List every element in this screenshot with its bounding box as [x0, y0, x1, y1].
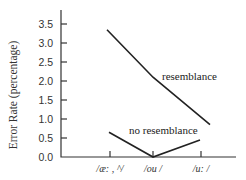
y-tick-label: 3.0: [38, 37, 53, 49]
series-labels: resemblanceno resemblance: [129, 70, 217, 136]
y-tick-label: 2.5: [38, 56, 53, 68]
data-series: [107, 30, 210, 157]
y-axis-label: Error Rate (percentage): [7, 41, 20, 150]
y-axis-title: Error Rate (percentage): [7, 41, 20, 150]
y-tick-label: 1.0: [38, 113, 53, 125]
line-chart: Error Rate (percentage) 0.00.51.01.52.02…: [0, 0, 246, 180]
y-tick-label: 0.5: [38, 132, 53, 144]
x-axis-ticks: /æ: , ^//ou //u: /: [95, 151, 210, 174]
series-line-no-resemblance: [109, 132, 200, 157]
x-category-label: /u: /: [192, 163, 211, 174]
y-tick-label: 0.0: [38, 151, 53, 163]
series-label-resemblance: resemblance: [162, 70, 217, 82]
y-tick-label: 2.0: [38, 75, 53, 87]
y-tick-label: 3.5: [38, 18, 53, 30]
y-tick-label: 1.5: [38, 94, 53, 106]
x-category-label: /ou /: [143, 163, 163, 174]
x-category-label: /æ: , ^/: [95, 163, 124, 174]
y-axis-ticks: 0.00.51.01.52.02.53.03.5: [38, 18, 67, 163]
series-label-no-resemblance: no resemblance: [129, 124, 198, 136]
